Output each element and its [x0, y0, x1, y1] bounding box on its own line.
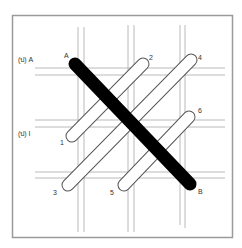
end-label-b: B [198, 188, 203, 195]
row-a-marker: (ป) A [18, 56, 34, 64]
label-3: 3 [53, 189, 57, 196]
label-5: 5 [110, 189, 114, 196]
weaving-diagram: (ป) A (ป) I A B 1 2 3 4 5 6 [0, 0, 242, 248]
row-i-marker: (ป) I [18, 130, 31, 138]
label-6: 6 [198, 107, 202, 114]
label-4: 4 [198, 54, 202, 61]
label-1: 1 [60, 139, 64, 146]
end-label-a: A [64, 52, 69, 59]
label-2: 2 [149, 54, 153, 61]
